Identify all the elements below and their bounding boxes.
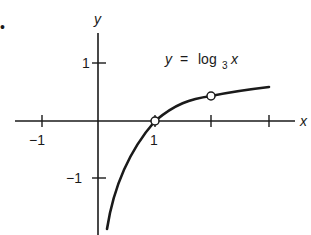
point-1-0 [151,117,159,125]
equation-lhs: y [164,51,173,67]
equation-equals: = [180,51,188,67]
equation-base: 3 [222,60,228,71]
x-tick-label-neg1: −1 [29,132,45,148]
log-graph: • y x −1 1 1 −1 y = log 3 x [0,0,311,235]
log-curve [107,87,269,229]
figure-bullet: • [0,19,5,35]
equation-log: log [198,51,217,67]
x-axis-label: x [299,113,308,129]
point-3-1 [207,92,215,100]
y-axis-label: y [93,11,102,27]
equation-label: y = log 3 x [164,51,239,71]
x-tick-label-1: 1 [150,132,158,148]
y-tick-label-neg1: −1 [66,170,82,186]
equation-arg: x [230,51,239,67]
y-tick-label-1: 1 [82,55,90,71]
